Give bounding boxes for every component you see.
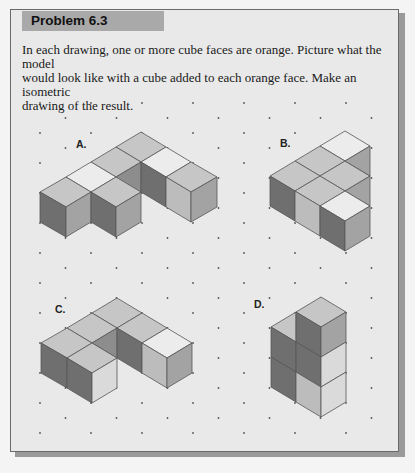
grid-dot — [345, 102, 347, 104]
grid-dot — [192, 102, 194, 104]
grid-dot — [243, 222, 245, 224]
grid-dot — [294, 402, 296, 404]
drawing-label: C. — [55, 303, 66, 315]
isometric-drawings: A. B. C. D. — [0, 0, 415, 473]
grid-dot — [141, 402, 143, 404]
grid-dot — [141, 102, 143, 104]
grid-dot — [65, 417, 67, 419]
grid-dot — [116, 417, 118, 419]
grid-dot — [141, 252, 143, 254]
grid-dot — [39, 252, 41, 254]
grid-dot — [218, 387, 220, 389]
grid-dot — [218, 177, 220, 179]
grid-dot — [192, 222, 194, 224]
grid-dot — [371, 417, 373, 419]
grid-dot — [243, 432, 245, 434]
grid-dot — [192, 282, 194, 284]
grid-dot — [294, 102, 296, 104]
grid-dot — [269, 357, 271, 359]
grid-dot — [371, 207, 373, 209]
grid-dot — [218, 297, 220, 299]
grid-dot — [269, 297, 271, 299]
grid-dot — [192, 312, 194, 314]
grid-dot — [345, 282, 347, 284]
grid-dot — [243, 372, 245, 374]
drawing-label: A. — [76, 138, 87, 150]
grid-dot — [320, 237, 322, 239]
grid-dot — [269, 117, 271, 119]
grid-dot — [39, 132, 41, 134]
grid-dot — [39, 102, 41, 104]
grid-dot — [90, 102, 92, 104]
drawing-b: B. — [270, 131, 370, 251]
drawing-d: D. — [254, 297, 346, 417]
grid-dot — [371, 237, 373, 239]
grid-dot — [141, 222, 143, 224]
grid-dot — [320, 267, 322, 269]
grid-dot — [141, 432, 143, 434]
grid-dot — [371, 177, 373, 179]
grid-dot — [269, 327, 271, 329]
grid-dot — [65, 117, 67, 119]
grid-dot — [116, 117, 118, 119]
grid-dot — [371, 327, 373, 329]
grid-dot — [243, 282, 245, 284]
grid-dot — [90, 282, 92, 284]
grid-dot — [90, 252, 92, 254]
grid-dot — [39, 402, 41, 404]
grid-dot — [294, 432, 296, 434]
grid-dot — [218, 207, 220, 209]
grid-dot — [39, 432, 41, 434]
grid-dot — [243, 342, 245, 344]
grid-dot — [65, 147, 67, 149]
grid-dot — [218, 237, 220, 239]
grid-dot — [243, 102, 245, 104]
grid-dot — [345, 252, 347, 254]
grid-dot — [65, 267, 67, 269]
grid-dot — [192, 402, 194, 404]
grid-dot — [218, 417, 220, 419]
grid-dot — [192, 132, 194, 134]
grid-dot — [243, 312, 245, 314]
grid-dot — [167, 117, 169, 119]
grid-dot — [294, 282, 296, 284]
drawing-label: B. — [280, 137, 291, 149]
grid-dot — [218, 267, 220, 269]
grid-dot — [269, 147, 271, 149]
grid-dot — [167, 297, 169, 299]
grid-dot — [90, 132, 92, 134]
grid-dot — [39, 282, 41, 284]
grid-dot — [320, 117, 322, 119]
grid-dot — [371, 267, 373, 269]
grid-dot — [167, 237, 169, 239]
grid-dot — [269, 237, 271, 239]
grid-dot — [218, 327, 220, 329]
grid-dot — [243, 132, 245, 134]
grid-dot — [192, 252, 194, 254]
grid-dot — [243, 192, 245, 194]
drawing-a: A. — [40, 132, 217, 237]
grid-dot — [243, 252, 245, 254]
grid-dot — [167, 417, 169, 419]
grid-dot — [39, 312, 41, 314]
grid-dot — [294, 132, 296, 134]
grid-dot — [243, 402, 245, 404]
grid-dot — [371, 297, 373, 299]
grid-dot — [218, 117, 220, 119]
grid-dot — [116, 267, 118, 269]
grid-dot — [371, 387, 373, 389]
grid-dot — [90, 432, 92, 434]
grid-dot — [371, 147, 373, 149]
grid-dot — [269, 417, 271, 419]
grid-dot — [294, 222, 296, 224]
grid-dot — [141, 282, 143, 284]
grid-dot — [218, 147, 220, 149]
grid-dot — [269, 207, 271, 209]
grid-dot — [39, 162, 41, 164]
grid-dot — [65, 297, 67, 299]
grid-dot — [243, 162, 245, 164]
grid-dot — [371, 117, 373, 119]
drawing-c: C. — [41, 298, 192, 403]
grid-dot — [218, 357, 220, 359]
drawing-label: D. — [254, 298, 265, 310]
